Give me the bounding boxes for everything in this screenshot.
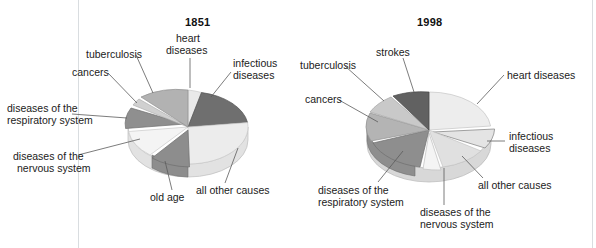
label-1998-infectious-line2: diseases	[509, 142, 550, 154]
label-1851-nervous-line1: diseases of the	[13, 150, 84, 162]
label-1998-nervous-line1: diseases of the	[420, 206, 491, 218]
label-1851-respiratory-line2: respiratory system	[7, 114, 93, 126]
label-1998-strokes: strokes	[376, 46, 410, 58]
label-1851-tuberculosis: tuberculosis	[86, 48, 142, 60]
leader-1851-cancers	[108, 73, 137, 103]
pie-1851-slices	[125, 89, 248, 177]
label-1851-respiratory-line1: diseases of the	[7, 102, 78, 114]
pie-1998-slices	[366, 92, 494, 182]
leader-1851-infectious	[211, 72, 231, 97]
label-1851-infectious-line2: diseases	[233, 69, 274, 81]
label-1851-cancers: cancers	[72, 66, 109, 78]
label-1998-respiratory-line2: respiratory system	[318, 196, 404, 208]
label-1851-infectious-line1: infectious	[233, 57, 277, 69]
label-1998-cancers: cancers	[305, 93, 342, 105]
label-1998-tuberculosis: tuberculosis	[300, 59, 356, 71]
label-1998-all-other-causes: all other causes	[478, 179, 552, 191]
label-1851-nervous-line2: nervous system	[17, 162, 91, 174]
label-1998-nervous-line2: nervous system	[420, 218, 494, 230]
leader-1998-heart	[477, 75, 504, 104]
leader-1998-strokes	[403, 58, 414, 92]
label-1998-heart-diseases: heart diseases	[507, 69, 575, 81]
label-1851-old-age: old age	[150, 191, 184, 203]
label-1998-infectious-line1: infectious	[509, 130, 553, 142]
slice-1998-heart-diseases	[429, 92, 491, 130]
label-1851-heart-line2: diseases	[166, 44, 207, 56]
chart-title-1998: 1998	[417, 16, 442, 28]
label-1851-all-other-causes: all other causes	[196, 184, 270, 196]
leader-1998-tuberculosis	[345, 66, 384, 101]
label-1851-heart-line1: heart	[176, 32, 200, 44]
figure-canvas: 1851	[0, 0, 596, 248]
label-1998-respiratory-line1: diseases of the	[318, 184, 389, 196]
leader-1851-tuberculosis	[136, 55, 153, 93]
